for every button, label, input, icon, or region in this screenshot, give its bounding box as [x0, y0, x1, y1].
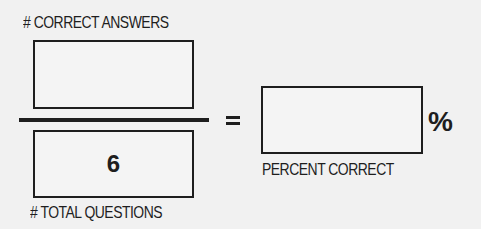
- equals-icon: [226, 116, 240, 126]
- percent-correct-box[interactable]: [261, 86, 423, 154]
- total-questions-label: # TOTAL QUESTIONS: [30, 203, 162, 223]
- correct-answers-label: # CORRECT ANSWERS: [23, 13, 169, 33]
- total-questions-box[interactable]: 6: [33, 130, 194, 198]
- total-questions-value: 6: [107, 150, 120, 178]
- percent-sign: %: [428, 106, 453, 138]
- fraction-bar: [19, 118, 209, 122]
- percent-correct-label: PERCENT CORRECT: [262, 160, 394, 180]
- correct-answers-box[interactable]: [33, 40, 194, 109]
